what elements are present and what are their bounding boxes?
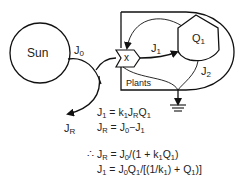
- j2-flow-line: [178, 61, 198, 90]
- storage-q1-label: Q1: [192, 32, 205, 48]
- heat-sink-icon: [170, 105, 186, 111]
- plants-label: Plants: [126, 77, 151, 89]
- equation-therefore-jr: ∴ JR = J0/(1 + k1Q1): [87, 148, 178, 164]
- j2-label: J2: [201, 65, 211, 81]
- j0-to-x-line: [96, 58, 116, 70]
- equation-j1: J1 = k1JRQ1: [97, 106, 151, 122]
- sun-label: Sun: [27, 47, 48, 59]
- j0-flow-line: [68, 59, 101, 84]
- jr-label: JR: [64, 122, 75, 138]
- equation-j1-solved: J1 = J0Q1/[(1/k1) + Q1)]: [97, 163, 202, 179]
- jr-flow-arrow: [68, 76, 100, 114]
- j1-label: J1: [151, 42, 161, 58]
- equation-jr: JR = J0−J1: [97, 121, 145, 137]
- j0-label: J0: [74, 44, 84, 60]
- interaction-label: x: [124, 52, 129, 64]
